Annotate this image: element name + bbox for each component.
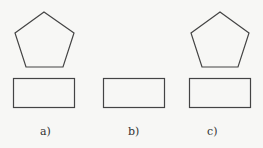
pentagon-c <box>191 12 249 67</box>
rectangle-a <box>14 79 75 108</box>
panel-label-b: b) <box>128 125 139 138</box>
rectangle-b <box>104 79 165 108</box>
pentagon-a <box>15 12 74 67</box>
panel-label-c: c) <box>207 125 217 138</box>
rectangle-c <box>190 79 251 108</box>
figure-canvas: a) b) c) <box>0 0 263 148</box>
panel-label-a: a) <box>40 125 51 138</box>
